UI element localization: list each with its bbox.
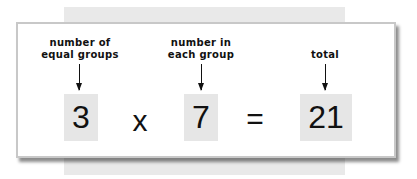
multiply-operator: x — [128, 104, 152, 138]
equals-operator: = — [240, 102, 270, 136]
per-group-value: 7 — [184, 94, 218, 141]
label-number-in-each-group: number in each group — [166, 37, 236, 61]
label-total: total — [305, 49, 345, 61]
arrow-down-icon — [79, 64, 80, 90]
label-number-of-equal-groups: number of equal groups — [40, 37, 120, 61]
arrow-down-icon — [325, 64, 326, 90]
groups-value: 3 — [64, 94, 98, 141]
total-value: 21 — [300, 94, 352, 141]
arrow-down-icon — [201, 64, 202, 90]
